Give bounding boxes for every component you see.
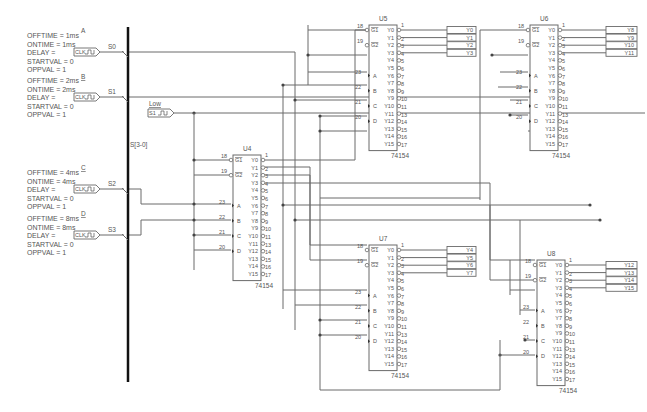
clock-label: CLK <box>75 232 86 238</box>
pin-number: 20 <box>355 114 361 120</box>
source-attr: DELAY = <box>27 49 55 56</box>
addr-label: B <box>541 323 545 329</box>
addr-label: B <box>237 218 241 224</box>
clock-source-d: DOFFTIME = 8msONTIME = 8msDELAY =STARTVA… <box>27 210 128 256</box>
output-pin: 3 <box>569 278 572 284</box>
source-attr: OPPVAL = 1 <box>27 111 66 118</box>
output-pin: 2 <box>401 36 404 42</box>
output-port-label: Y13 <box>624 270 634 276</box>
chip-ref: U6 <box>540 15 549 22</box>
output-pin: 13 <box>562 112 568 118</box>
pin-number: 18 <box>357 23 363 29</box>
output-pin: 2 <box>569 271 572 277</box>
output-label: Y0 <box>251 157 258 163</box>
pin-number: 18 <box>221 153 227 159</box>
output-label: Y8 <box>251 218 258 224</box>
output-label: Y5 <box>548 65 555 71</box>
net-label: S1 <box>108 88 116 95</box>
output-pin: 10 <box>401 316 407 322</box>
pin-number: 23 <box>516 69 522 75</box>
output-pin: 4 <box>265 181 268 187</box>
source-attr: ONTIME = 4ms <box>27 178 76 185</box>
output-label: Y10 <box>384 103 394 109</box>
addr-label: C <box>534 103 538 109</box>
source-attr: OPPVAL = 1 <box>27 66 66 73</box>
enable-bubble <box>533 278 537 282</box>
output-label: Y2 <box>387 262 394 268</box>
output-label: Y12 <box>384 338 394 344</box>
output-pin: 17 <box>401 142 407 148</box>
chip-u7: U774154Y01Y12Y23Y34Y45Y56Y67Y78Y89Y910Y1… <box>355 235 476 379</box>
chip-u8: U874154Y01Y12Y23Y34Y45Y56Y67Y78Y89Y910Y1… <box>523 250 637 394</box>
output-port-label: Y11 <box>625 50 634 56</box>
output-label: Y13 <box>552 361 562 367</box>
output-label: Y11 <box>385 111 394 117</box>
output-pin: 16 <box>562 134 568 140</box>
clock-source-b: BOFFTIME = 2msONTIME = 2msDELAY =STARTVA… <box>27 73 128 118</box>
g2-label: G2 <box>371 42 378 48</box>
output-pin: 5 <box>401 278 404 284</box>
output-pin: 10 <box>562 96 568 102</box>
output-label: Y10 <box>248 233 258 239</box>
output-port-label: Y10 <box>624 42 634 48</box>
junction-dot <box>281 83 284 86</box>
pin-number: 20 <box>219 244 225 250</box>
output-pin: 5 <box>569 293 572 299</box>
output-pin: 5 <box>265 188 268 194</box>
output-label: Y10 <box>545 103 555 109</box>
output-pin: 9 <box>401 309 404 315</box>
junction-dot <box>306 53 309 56</box>
pin-number: 20 <box>516 114 522 120</box>
junction-dot <box>192 158 195 161</box>
pin-number: 19 <box>221 168 227 174</box>
output-bubble <box>397 28 401 32</box>
output-pin: 4 <box>569 286 572 292</box>
output-label: Y15 <box>552 376 562 382</box>
enable-bubble <box>533 263 537 267</box>
output-label: Y11 <box>385 331 394 337</box>
output-label: Y14 <box>384 353 394 359</box>
output-label: Y11 <box>553 346 562 352</box>
pin-number: 23 <box>523 304 529 310</box>
output-pin: 1 <box>265 152 268 158</box>
addr-label: C <box>237 233 241 239</box>
output-pin: 1 <box>562 22 565 28</box>
output-label: Y8 <box>387 88 394 94</box>
output-pin: 10 <box>401 96 407 102</box>
output-port-label: Y5 <box>466 255 473 261</box>
g2-label: G2 <box>532 42 539 48</box>
output-label: Y6 <box>387 73 394 79</box>
output-pin: 6 <box>562 66 565 72</box>
output-port-label: Y2 <box>466 42 473 48</box>
output-label: Y4 <box>387 277 394 283</box>
output-pin: 14 <box>569 354 575 360</box>
source-attr: OFFTIME = 1ms <box>27 32 79 39</box>
output-label: Y9 <box>251 225 258 231</box>
output-pin: 6 <box>401 286 404 292</box>
junction-dot <box>508 113 511 116</box>
addr-label: D <box>237 248 241 254</box>
clock-source-a: AOFFTIME = 1msONTIME = 1msDELAY =STARTVA… <box>27 27 128 73</box>
output-label: Y12 <box>545 118 555 124</box>
output-port-label: Y12 <box>624 262 634 268</box>
output-label: Y13 <box>545 126 555 132</box>
pin-number: 22 <box>219 214 225 220</box>
output-pin: 4 <box>562 51 565 57</box>
junction-dot <box>318 333 321 336</box>
output-label: Y7 <box>387 80 394 86</box>
pin-number: 22 <box>523 319 529 325</box>
enable-bubble <box>229 158 233 162</box>
output-label: Y6 <box>548 73 555 79</box>
output-label: Y2 <box>251 172 258 178</box>
output-label: Y1 <box>555 270 562 276</box>
output-label: Y3 <box>387 50 394 56</box>
output-label: Y12 <box>552 353 562 359</box>
output-pin: 7 <box>569 309 572 315</box>
pin-number: 18 <box>518 23 524 29</box>
output-pin: 11 <box>265 234 271 240</box>
pin-number: 21 <box>219 229 225 235</box>
junction-dot <box>281 203 284 206</box>
output-pin: 2 <box>562 36 565 42</box>
output-label: Y1 <box>251 165 258 171</box>
pin-number: 18 <box>357 243 363 249</box>
